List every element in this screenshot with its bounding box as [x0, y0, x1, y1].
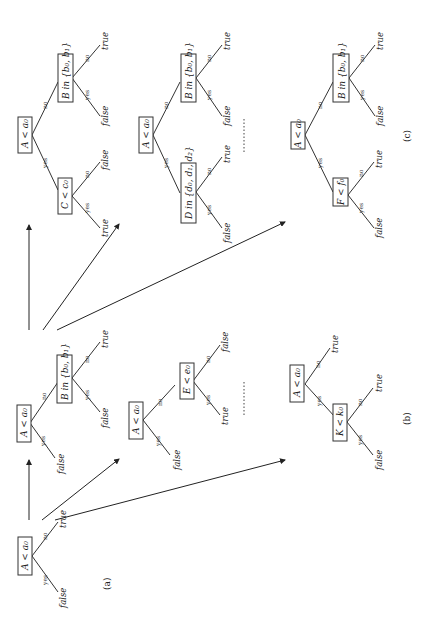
leaf-true: true — [374, 150, 384, 168]
yes-edge-label: yes — [154, 436, 162, 447]
yes-edge-label: yes — [356, 435, 364, 446]
no-edge-label: no — [205, 54, 212, 62]
leaf-false: false — [374, 450, 384, 471]
d-node-label: D in {d₀, d₁, d₂} — [184, 146, 194, 220]
yes-edge-label: yes — [204, 395, 212, 406]
leaf-false: false — [100, 150, 110, 171]
no-edge-label: no — [40, 392, 47, 400]
leaf-false: false — [220, 332, 230, 353]
arrows-b-to-c — [29, 222, 285, 330]
root-node-label: A < a₀ — [20, 119, 30, 149]
tree-c3: A < a₀ F < f₀ B in {b₀, b₁} yes no yes n… — [291, 32, 385, 239]
no-edge-label: no — [162, 101, 169, 109]
leaf-false: false — [100, 408, 110, 429]
no-edge-label: no — [357, 169, 364, 177]
yes-edge-label: yes — [357, 203, 365, 214]
no-edge-label: no — [83, 170, 90, 178]
k-node-label: K < k₀ — [335, 407, 345, 437]
leaf-true: true — [100, 330, 110, 348]
yes-edge-label: yes — [205, 90, 213, 101]
no-edge-label: no — [316, 101, 323, 109]
tree-b2: A < a₀ E < e₀ yes no yes no false true f… — [129, 332, 230, 471]
leaf-true: true — [330, 335, 340, 353]
leaf-false: false — [100, 106, 110, 127]
yes-edge-label: yes — [315, 396, 323, 407]
no-edge-label: no — [41, 101, 48, 109]
root-node-label: A < a₀ — [131, 405, 141, 435]
leaf-true: true — [222, 145, 232, 163]
leaf-true: true — [100, 219, 110, 237]
leaf-true: true — [375, 32, 385, 50]
yes-edge-label: yes — [83, 390, 91, 401]
tree-a: A < a₀ yes no false true — [18, 510, 68, 609]
no-edge-label: no — [156, 398, 163, 406]
b-node-label: B in {b₀, b₁} — [184, 42, 194, 100]
leaf-true: true — [100, 32, 110, 50]
yes-edge-label: yes — [316, 158, 324, 169]
leaf-true: true — [222, 32, 232, 50]
leaf-true: true — [374, 374, 384, 392]
yes-edge-label: yes — [358, 90, 366, 101]
no-edge-label: no — [314, 360, 321, 368]
no-edge-label: no — [205, 167, 212, 175]
caption-a: (a) — [102, 578, 112, 590]
leaf-true: true — [220, 407, 230, 425]
caption-c: (c) — [402, 130, 412, 142]
no-edge-label: no — [204, 355, 211, 363]
b-node-label: B in {b₀, b₁} — [337, 42, 347, 100]
tree-c1: A < a₀ C < c₀ B in {b₀, b₁} yes no yes n… — [18, 32, 110, 237]
yes-edge-label: yes — [83, 90, 91, 101]
root-node-label: A < a₀ — [141, 119, 151, 149]
b-node-label: B in {b₀, b₁} — [61, 42, 71, 100]
e-node-label: E < e₀ — [182, 365, 192, 395]
leaf-false: false — [375, 106, 385, 127]
decision-tree-diagram: A < a₀ yes no false true (a) A < a₀ B in… — [0, 0, 424, 621]
leaf-false: false — [58, 588, 68, 609]
root-node-label: A < a₀ — [20, 541, 30, 571]
no-edge-label: no — [41, 532, 48, 540]
yes-edge-label: yes — [39, 436, 47, 447]
root-node-label: A < a₀ — [293, 119, 303, 149]
leaf-false: false — [172, 450, 182, 471]
yes-edge-label: yes — [162, 158, 170, 169]
yes-edge-label: yes — [83, 203, 91, 214]
leaf-false: false — [222, 106, 232, 127]
b-node-label: B in {b₀, b₁} — [60, 343, 70, 401]
caption-b: (b) — [402, 412, 412, 425]
yes-edge-label: yes — [205, 205, 213, 216]
root-node-label: A < a₀ — [292, 368, 302, 398]
tree-b3: A < a₀ K < k₀ yes no yes no false true t… — [290, 335, 384, 471]
f-node-label: F < f₀ — [336, 178, 346, 206]
yes-edge-label: yes — [41, 575, 49, 586]
tree-c2: A < a₀ D in {d₀, d₁, d₂} B in {b₀, b₁} y… — [139, 32, 232, 244]
leaf-false: false — [374, 218, 384, 239]
root-node-label: A < a₀ — [19, 408, 29, 438]
no-edge-label: no — [356, 398, 363, 406]
c-node-label: C < c₀ — [60, 180, 70, 209]
tree-b1: A < a₀ B in {b₀, b₁} yes no yes no false… — [17, 330, 110, 475]
no-edge-label: no — [358, 54, 365, 62]
leaf-false: false — [56, 454, 66, 475]
yes-edge-label: yes — [41, 158, 49, 169]
no-edge-label: no — [83, 355, 90, 363]
leaf-false: false — [222, 223, 232, 244]
no-edge-label: no — [83, 54, 90, 62]
